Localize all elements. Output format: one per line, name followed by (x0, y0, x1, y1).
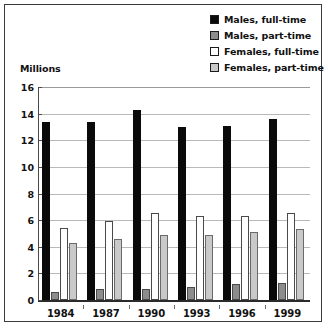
y-tick-label-0: 0 (27, 295, 34, 306)
x-axis-labels: 198419871990199319961999 (38, 305, 310, 323)
x-tick-label-1984: 1984 (38, 308, 83, 319)
bar-males-part-1993 (187, 287, 195, 300)
legend-swatch-males_part (210, 31, 219, 40)
x-tick-mark-1993 (174, 305, 175, 309)
x-tick-label-1993: 1993 (174, 308, 219, 319)
chart-legend: Males, full-timeMales, part-timeFemales,… (210, 12, 325, 76)
bar-females-full-1987 (105, 221, 113, 300)
bar-females-part-1984 (69, 243, 77, 300)
legend-label-males_full: Males, full-time (224, 15, 306, 25)
bar-males-full-1996 (223, 126, 231, 300)
legend-label-females_part: Females, part-time (224, 63, 324, 73)
bar-males-part-1996 (232, 284, 240, 300)
bar-females-full-1996 (241, 216, 249, 300)
bar-group-1996 (219, 87, 264, 300)
x-tick-label-1990: 1990 (129, 308, 174, 319)
chart-frame: Males, full-timeMales, part-timeFemales,… (4, 4, 322, 322)
bar-group-1990 (129, 87, 174, 300)
bar-males-full-1993 (178, 127, 186, 300)
bar-males-part-1990 (142, 289, 150, 300)
bar-males-part-1984 (51, 292, 59, 300)
x-tick-label-1996: 1996 (219, 308, 264, 319)
bar-males-part-1987 (96, 289, 104, 300)
bar-females-part-1996 (250, 232, 258, 300)
bar-females-part-1993 (205, 235, 213, 300)
y-tick-label-10: 10 (21, 161, 34, 172)
bar-females-part-1987 (114, 239, 122, 300)
y-tick-mark-0 (38, 300, 42, 301)
bar-females-full-1984 (60, 228, 68, 300)
y-tick-mark-8 (38, 194, 42, 195)
legend-label-females_full: Females, full-time (224, 47, 319, 57)
y-tick-label-16: 16 (21, 82, 34, 93)
x-tick-mark-1987 (83, 305, 84, 309)
legend-label-males_part: Males, part-time (224, 31, 311, 41)
x-tick-mark-1999 (265, 305, 266, 309)
x-tick-label-1987: 1987 (83, 308, 128, 319)
y-tick-label-6: 6 (27, 215, 34, 226)
legend-item-males_full: Males, full-time (210, 12, 325, 27)
plot-area (38, 87, 310, 300)
y-tick-mark-12 (38, 140, 42, 141)
plot-inner (38, 87, 310, 300)
y-tick-mark-14 (38, 114, 42, 115)
legend-swatch-females_part (210, 63, 219, 72)
bar-males-full-1999 (269, 119, 277, 300)
y-tick-label-12: 12 (21, 135, 34, 146)
x-tick-mark-1996 (219, 305, 220, 309)
x-tick-mark-1990 (129, 305, 130, 309)
y-axis-tick-labels: 0246810121416 (5, 87, 34, 301)
y-tick-label-14: 14 (21, 108, 34, 119)
bar-males-full-1984 (42, 122, 50, 300)
y-tick-label-8: 8 (27, 188, 34, 199)
bar-group-1987 (83, 87, 128, 300)
bar-females-part-1990 (160, 235, 168, 300)
bar-males-full-1987 (87, 122, 95, 300)
y-tick-label-2: 2 (27, 268, 34, 279)
bar-females-part-1999 (296, 229, 304, 300)
y-tick-mark-2 (38, 273, 42, 274)
legend-item-females_full: Females, full-time (210, 44, 325, 59)
legend-item-females_part: Females, part-time (210, 60, 325, 75)
legend-swatch-males_full (210, 15, 219, 24)
bar-group-1999 (265, 87, 310, 300)
bar-males-part-1999 (278, 283, 286, 300)
bar-males-full-1990 (133, 110, 141, 300)
y-tick-mark-10 (38, 167, 42, 168)
y-tick-mark-6 (38, 220, 42, 221)
y-axis-title: Millions (20, 63, 61, 74)
bar-group-1993 (174, 87, 219, 300)
bar-females-full-1999 (287, 213, 295, 300)
y-tick-mark-16 (38, 87, 42, 88)
bar-group-1984 (38, 87, 83, 300)
bar-females-full-1993 (196, 216, 204, 300)
bar-females-full-1990 (151, 213, 159, 300)
x-axis-line (38, 300, 310, 302)
legend-swatch-females_full (210, 47, 219, 56)
y-tick-mark-4 (38, 247, 42, 248)
x-tick-label-1999: 1999 (265, 308, 310, 319)
legend-item-males_part: Males, part-time (210, 28, 325, 43)
y-tick-label-4: 4 (27, 241, 34, 252)
